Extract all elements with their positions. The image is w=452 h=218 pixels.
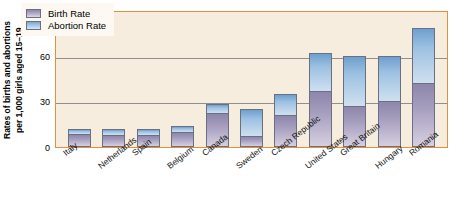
chart-figure: Rates of births and abortions per 1,000 … <box>0 0 452 218</box>
y-tick-30: 30 <box>40 97 50 107</box>
x-tick-label-hungary: Hungary <box>373 143 404 171</box>
bar-segment-abortion-rate[interactable] <box>275 95 296 116</box>
bar-slot <box>131 12 165 147</box>
bar-segment-birth-rate[interactable] <box>172 132 193 146</box>
bar-segment-birth-rate[interactable] <box>379 101 400 146</box>
chart-legend: Birth Rate Abortion Rate <box>21 3 114 36</box>
x-tick-label-belgium: Belgium <box>165 144 195 171</box>
bar-segment-abortion-rate[interactable] <box>344 57 365 106</box>
bar-group <box>56 12 447 147</box>
legend-item-birth-rate: Birth Rate <box>26 8 106 19</box>
birth-rate-swatch-icon <box>26 9 41 18</box>
bar-segment-abortion-rate[interactable] <box>413 29 434 83</box>
stacked-bar[interactable] <box>378 56 401 147</box>
bar-segment-abortion-rate[interactable] <box>241 110 262 136</box>
bar-slot <box>234 12 268 147</box>
legend-item-abortion-rate: Abortion Rate <box>26 20 106 31</box>
stacked-bar[interactable] <box>240 109 263 147</box>
bar-slot <box>165 12 199 147</box>
bar-segment-abortion-rate[interactable] <box>310 54 331 91</box>
stacked-bar[interactable] <box>171 126 194 147</box>
bar-segment-abortion-rate[interactable] <box>207 105 228 112</box>
bar-segment-abortion-rate[interactable] <box>379 57 400 102</box>
abortion-rate-swatch-icon <box>26 21 41 30</box>
y-axis-title-line-1: Rates of births and abortions <box>2 0 12 160</box>
bar-slot <box>200 12 234 147</box>
y-tick-0: 0 <box>45 143 50 153</box>
stacked-bar[interactable] <box>309 53 332 147</box>
y-tick-60: 60 <box>40 52 50 62</box>
x-tick-label-sweden: Sweden <box>234 144 264 171</box>
legend-label-birth-rate: Birth Rate <box>48 8 90 19</box>
legend-label-abortion-rate: Abortion Rate <box>48 20 106 31</box>
bar-slot <box>407 12 441 147</box>
x-axis-tick-labels: ItalyNetherlandsSpainBelgiumCanadaSweden… <box>55 148 448 206</box>
